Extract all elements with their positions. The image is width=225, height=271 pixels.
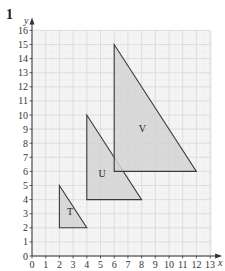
y-tick-label: 2	[23, 222, 28, 233]
x-tick-label: 5	[98, 259, 103, 270]
x-tick-label: 3	[71, 259, 76, 270]
y-tick-label: 16	[18, 25, 28, 36]
x-tick-label: 2	[57, 259, 62, 270]
y-tick-label: 12	[18, 81, 28, 92]
y-tick-label: 5	[23, 180, 28, 191]
y-tick-label: 13	[18, 67, 28, 78]
x-axis-label: x	[217, 257, 223, 268]
y-tick-label: 0	[23, 251, 28, 262]
y-tick-label: 3	[23, 208, 28, 219]
y-tick-label: 7	[23, 152, 28, 163]
x-tick-label: 1	[43, 259, 48, 270]
y-tick-label: 11	[18, 95, 28, 106]
y-tick-label: 1	[23, 236, 28, 247]
x-tick-label: 8	[139, 259, 144, 270]
x-tick-label: 10	[164, 259, 174, 270]
x-tick-label: 4	[84, 259, 89, 270]
triangle-label-t: T	[67, 206, 73, 217]
triangle-label-v: V	[139, 123, 147, 134]
y-tick-label: 6	[23, 166, 28, 177]
triangle-label-u: U	[98, 168, 106, 179]
x-tick-label: 11	[178, 259, 188, 270]
x-tick-label: 13	[205, 259, 215, 270]
y-tick-label: 8	[23, 138, 28, 149]
x-tick-label: 6	[112, 259, 117, 270]
x-tick-label: 9	[153, 259, 158, 270]
y-axis-arrow-icon	[30, 17, 35, 24]
x-tick-label: 12	[191, 259, 201, 270]
y-tick-label: 14	[18, 53, 28, 64]
x-tick-label: 7	[125, 259, 130, 270]
x-tick-label: 0	[30, 259, 35, 270]
y-tick-label: 10	[18, 110, 28, 121]
y-tick-label: 4	[23, 194, 28, 205]
y-tick-label: 9	[23, 124, 28, 135]
y-tick-label: 15	[18, 39, 28, 50]
coordinate-grid-diagram: TUV yx 012345678910111213012345678910111…	[0, 0, 225, 271]
